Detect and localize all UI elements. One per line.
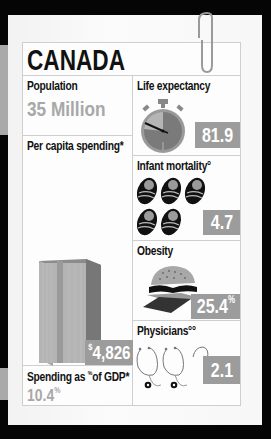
population-label: Population (27, 79, 77, 93)
physicians-value: 2.1 (210, 359, 232, 382)
paperclip-icon (195, 10, 219, 75)
obesity-cell: Obesity 25.4% (133, 241, 240, 321)
obesity-label: Obesity (137, 244, 173, 258)
per-capita-value-box: $4,826 (85, 340, 133, 365)
per-capita-label: Per capita spending* (27, 139, 123, 153)
per-capita-spending-cell: Per capita spending* $4,826 (23, 136, 133, 366)
population-cell: Population 35 Million (23, 76, 133, 136)
stopwatch-icon (137, 98, 189, 154)
life-expectancy-value: 81.9 (202, 124, 233, 147)
infant-mortality-cell: Infant mortality° 4.7 (133, 156, 240, 241)
life-expectancy-cell: Life expectancy 81.9 (133, 76, 240, 156)
obesity-value: 25.4 (196, 295, 227, 317)
spending-gdp-label: Spending as %of GDP* (27, 370, 129, 384)
left-tab-marker (0, 368, 8, 400)
infant-mortality-value: 4.7 (210, 211, 232, 234)
infant-mortality-value-box: 4.7 (203, 210, 240, 235)
life-expectancy-label: Life expectancy (137, 79, 210, 93)
left-tab-marker (0, 45, 8, 135)
population-value: 35 Million (27, 97, 105, 121)
currency-symbol: $ (88, 341, 92, 352)
infant-mortality-label: Infant mortality° (137, 159, 211, 173)
baby-icon (137, 177, 212, 239)
obesity-value-box: 25.4% (191, 294, 240, 319)
physicians-label: Physicians°° (137, 324, 196, 338)
physicians-value-box: 2.1 (203, 356, 240, 384)
per-capita-value: 4,826 (92, 342, 130, 363)
country-title: CANADA (27, 44, 125, 77)
country-card: CANADA Population 35 Million Per capita … (22, 42, 241, 406)
spending-gdp-value: 10.4% (27, 386, 60, 406)
spending-gdp-cell: Spending as %of GDP* 10.4% (23, 366, 133, 406)
life-expectancy-value-box: 81.9 (195, 122, 240, 148)
physicians-cell: Physicians°° 2.1 (133, 321, 240, 406)
